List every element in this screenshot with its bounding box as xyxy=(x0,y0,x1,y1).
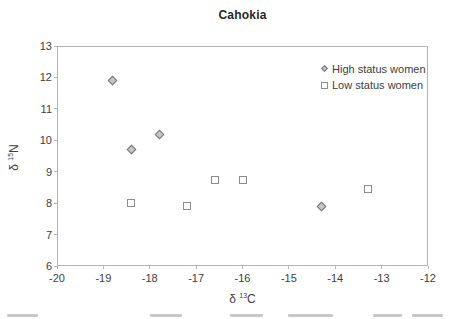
cropped-caption-fragment xyxy=(150,314,182,317)
low-status-data-point xyxy=(127,199,135,207)
x-tick-mark xyxy=(57,266,58,269)
y-tick-label: 11 xyxy=(26,103,52,115)
x-axis-delta: δ xyxy=(229,292,236,306)
y-axis-delta: δ xyxy=(7,164,21,171)
y-tick-label: 10 xyxy=(26,134,52,146)
low-status-data-point xyxy=(183,202,191,210)
x-tick-label: -16 xyxy=(227,272,259,284)
x-tick-label: -13 xyxy=(366,272,398,284)
x-tick-mark xyxy=(196,266,197,269)
x-tick-mark xyxy=(103,266,104,269)
y-tick-mark xyxy=(54,77,57,78)
cropped-caption-fragment xyxy=(230,314,263,317)
x-tick-mark xyxy=(428,266,429,269)
scatter-chart-figure: Cahokia δ 15N δ 13C High status women Lo… xyxy=(0,0,450,319)
cropped-caption-fragment xyxy=(7,314,38,317)
x-axis-label: δ 13C xyxy=(57,292,428,306)
y-tick-label: 13 xyxy=(26,40,52,52)
legend: High status women Low status women xyxy=(320,61,420,93)
y-tick-mark xyxy=(54,140,57,141)
x-axis-letter: C xyxy=(247,292,256,306)
square-marker-icon xyxy=(320,80,332,90)
x-tick-label: -18 xyxy=(134,272,166,284)
y-axis-letter: N xyxy=(7,144,21,153)
x-tick-mark xyxy=(288,266,289,269)
y-tick-mark xyxy=(54,234,57,235)
legend-label: Low status women xyxy=(332,79,423,91)
x-tick-mark xyxy=(242,266,243,269)
y-tick-mark xyxy=(54,108,57,109)
x-tick-label: -17 xyxy=(180,272,212,284)
legend-item-high-status: High status women xyxy=(320,61,420,77)
x-tick-mark xyxy=(335,266,336,269)
low-status-data-point xyxy=(211,176,219,184)
y-tick-mark xyxy=(54,203,57,204)
y-axis-label: δ 15N xyxy=(7,98,22,218)
low-status-data-point xyxy=(364,185,372,193)
y-tick-label: 8 xyxy=(26,197,52,209)
legend-item-low-status: Low status women xyxy=(320,77,420,93)
chart-title: Cahokia xyxy=(57,8,428,22)
legend-label: High status women xyxy=(332,63,426,75)
cropped-caption-fragment xyxy=(373,314,402,317)
y-tick-label: 7 xyxy=(26,229,52,241)
low-status-data-point xyxy=(239,176,247,184)
x-tick-mark xyxy=(381,266,382,269)
x-axis-superscript: 13 xyxy=(239,292,247,299)
y-tick-label: 6 xyxy=(26,260,52,272)
x-tick-label: -12 xyxy=(412,272,444,284)
y-tick-label: 9 xyxy=(26,166,52,178)
y-tick-mark xyxy=(54,171,57,172)
x-tick-label: -15 xyxy=(273,272,305,284)
cropped-caption-fragment xyxy=(412,314,443,317)
y-tick-label: 12 xyxy=(26,71,52,83)
x-tick-label: -14 xyxy=(319,272,351,284)
y-axis-superscript: 15 xyxy=(7,153,14,161)
x-tick-mark xyxy=(149,266,150,269)
diamond-marker-icon xyxy=(320,64,332,74)
x-tick-label: -19 xyxy=(87,272,119,284)
x-tick-label: -20 xyxy=(41,272,73,284)
y-tick-mark xyxy=(54,46,57,47)
cropped-caption-fragment xyxy=(288,314,333,317)
